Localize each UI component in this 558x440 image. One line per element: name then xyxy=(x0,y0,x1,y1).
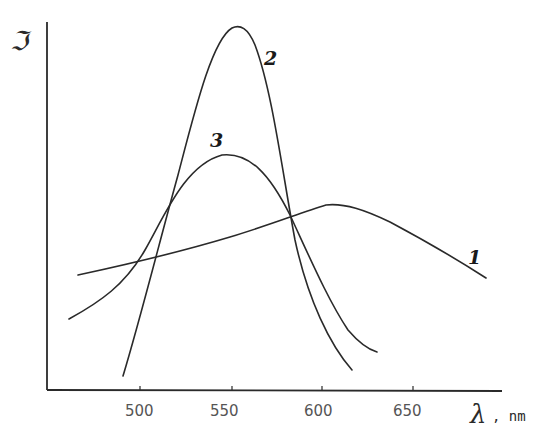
x-tick-label-600: 600 xyxy=(304,402,333,420)
curve-1 xyxy=(78,205,486,278)
curve-1-label: 1 xyxy=(468,246,481,268)
curve-3-label: 3 xyxy=(210,129,223,151)
curve-3 xyxy=(69,155,377,352)
x-axis-label: λ xyxy=(469,399,486,429)
curve-2 xyxy=(123,27,352,376)
y-axis-label: ℑ xyxy=(10,26,32,56)
spectral-intensity-chart: 500 550 600 650 ℑ λ , nm 1 2 3 xyxy=(0,0,558,440)
x-tick-label-550: 550 xyxy=(210,402,239,420)
x-axis-unit: , nm xyxy=(492,408,526,424)
x-tick-label-500: 500 xyxy=(125,402,154,420)
curve-2-label: 2 xyxy=(263,47,277,69)
x-tick-label-650: 650 xyxy=(393,402,422,420)
x-axis xyxy=(47,390,502,391)
